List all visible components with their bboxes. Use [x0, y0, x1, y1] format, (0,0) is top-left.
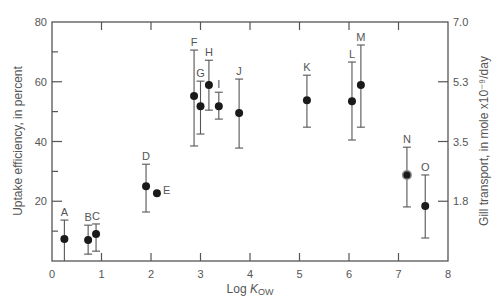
point-label: C — [92, 210, 100, 222]
point-label: J — [236, 65, 242, 77]
right-axis-label: Gill transport, in mole x10⁻⁹/day — [477, 56, 491, 226]
data-point-j: J — [235, 65, 243, 148]
point-label: K — [303, 61, 311, 73]
data-point-c: C — [92, 210, 100, 251]
marker — [153, 189, 161, 197]
point-label: G — [196, 67, 205, 79]
point-label: B — [84, 211, 91, 223]
marker — [421, 202, 429, 210]
data-point-l: L — [348, 48, 356, 140]
marker — [348, 97, 356, 105]
right-tick-label: 1.8 — [453, 195, 468, 207]
point-label: H — [205, 46, 213, 58]
x-tick-label: 4 — [247, 268, 253, 280]
point-label: O — [421, 161, 430, 173]
y-tick-label: 40 — [35, 136, 47, 148]
x-tick-label: 1 — [98, 268, 104, 280]
x-tick-label: 7 — [395, 268, 401, 280]
marker — [197, 102, 205, 110]
data-points: ABCDEFGHIJKLMNO — [60, 31, 430, 261]
right-tick-label: 7.0 — [453, 16, 468, 28]
marker — [205, 81, 213, 89]
marker — [84, 236, 92, 244]
y-tick-label: 20 — [35, 195, 47, 207]
data-point-d: D — [142, 150, 150, 212]
x-tick-label: 0 — [49, 268, 55, 280]
x-tick-label: 6 — [346, 268, 352, 280]
x-tick-label: 3 — [197, 268, 203, 280]
marker — [60, 235, 68, 243]
marker — [357, 81, 365, 89]
data-point-g: G — [196, 67, 205, 134]
point-label: L — [349, 48, 355, 60]
right-tick-label: 3.5 — [453, 136, 468, 148]
point-label: N — [403, 133, 411, 145]
marker — [190, 92, 198, 100]
point-label: F — [191, 36, 198, 48]
data-point-i: I — [215, 78, 223, 119]
data-point-k: K — [303, 61, 311, 127]
y-axis-label: Uptake efficiency, in percent — [11, 66, 25, 216]
x-tick-label: 8 — [445, 268, 451, 280]
data-point-b: B — [84, 211, 92, 254]
data-point-h: H — [205, 46, 213, 110]
point-label: D — [142, 150, 150, 162]
data-point-a: A — [60, 206, 68, 261]
marker — [215, 102, 223, 110]
plot-frame — [52, 22, 448, 261]
x-tick-label: 2 — [148, 268, 154, 280]
data-point-f: F — [190, 36, 198, 146]
x-tick-label: 5 — [296, 268, 302, 280]
data-point-n: N — [402, 133, 412, 207]
point-label: E — [163, 184, 170, 196]
point-label: A — [61, 206, 69, 218]
data-point-o: O — [421, 161, 430, 238]
data-point-e: E — [153, 184, 170, 197]
y-tick-label: 80 — [35, 16, 47, 28]
marker — [92, 230, 100, 238]
marker — [235, 109, 243, 117]
marker — [403, 171, 410, 178]
x-axis-label: Log KOW — [227, 282, 274, 297]
marker — [142, 182, 150, 190]
axis-ticks: 012345678204060807.05.33.51.8 — [35, 16, 469, 280]
right-tick-label: 5.3 — [453, 76, 468, 88]
point-label: M — [356, 31, 365, 43]
marker — [303, 96, 311, 104]
plot-axes — [52, 22, 448, 261]
chart: 012345678204060807.05.33.51.8 ABCDEFGHIJ… — [0, 0, 501, 305]
y-tick-label: 60 — [35, 76, 47, 88]
data-point-m: M — [356, 31, 365, 127]
point-label: I — [217, 78, 220, 90]
